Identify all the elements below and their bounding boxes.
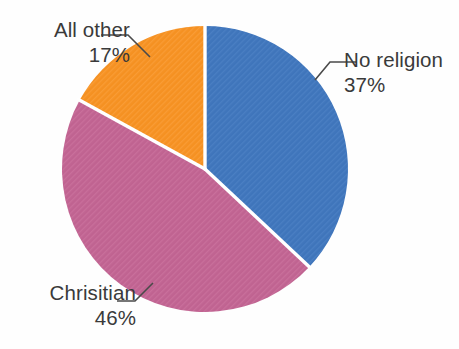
pie-label-all-other: All other 17% — [26, 17, 130, 67]
pie-label-chrisitian-name: Chrisitian — [18, 280, 136, 305]
pie-chart-figure: All other 17% No religion 37% Chrisitian… — [0, 0, 459, 349]
pie-label-no-religion-value: 37% — [344, 72, 443, 97]
pie-label-no-religion: No religion 37% — [344, 47, 443, 97]
pie-label-all-other-value: 17% — [26, 42, 130, 67]
pie-label-chrisitian-value: 46% — [18, 305, 136, 330]
pie-label-no-religion-name: No religion — [344, 47, 443, 72]
pie-label-chrisitian: Chrisitian 46% — [18, 280, 136, 330]
pie-label-all-other-name: All other — [26, 17, 130, 42]
